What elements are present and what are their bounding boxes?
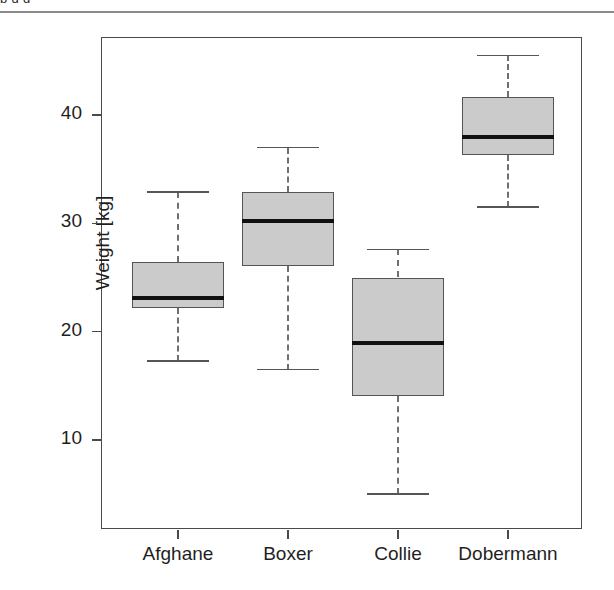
y-tick-mark [92, 114, 101, 116]
box-iqr[interactable] [462, 97, 554, 156]
whisker-cap-upper [257, 147, 319, 149]
median-line [462, 135, 554, 139]
x-tick-mark [177, 530, 179, 539]
whisker-upper [507, 55, 509, 96]
header-divider [0, 11, 614, 13]
whisker-lower [177, 308, 179, 361]
whisker-cap-lower [477, 206, 539, 208]
x-tick-label: Dobermann [428, 543, 588, 565]
box-iqr[interactable] [132, 262, 224, 308]
whisker-cap-upper [477, 55, 539, 57]
whisker-lower [397, 396, 399, 495]
y-tick-mark [92, 439, 101, 441]
box-iqr[interactable] [242, 192, 334, 266]
y-tick-label: 20 [22, 319, 82, 341]
whisker-upper [397, 249, 399, 277]
x-tick-mark [287, 530, 289, 539]
whisker-cap-upper [367, 249, 429, 251]
whisker-upper [287, 148, 289, 192]
y-tick-label: 10 [22, 427, 82, 449]
whisker-lower [507, 155, 509, 207]
cropped-header-text: p g g [0, 0, 614, 3]
box-iqr[interactable] [352, 278, 444, 396]
chart-page: p g g Weight [kg] 10203040AfghaneBoxerCo… [0, 0, 614, 590]
whisker-cap-lower [367, 493, 429, 495]
x-tick-mark [397, 530, 399, 539]
y-tick-mark [92, 331, 101, 333]
whisker-lower [287, 266, 289, 370]
whisker-cap-lower [257, 369, 319, 371]
x-tick-mark [507, 530, 509, 539]
y-tick-label: 40 [22, 102, 82, 124]
whisker-upper [177, 192, 179, 262]
median-line [132, 296, 224, 300]
whisker-cap-upper [147, 191, 209, 193]
median-line [352, 341, 444, 345]
y-axis-title: Weight [kg] [92, 133, 114, 353]
y-tick-mark [92, 223, 101, 225]
median-line [242, 219, 334, 223]
y-tick-label: 30 [22, 210, 82, 232]
whisker-cap-lower [147, 360, 209, 362]
